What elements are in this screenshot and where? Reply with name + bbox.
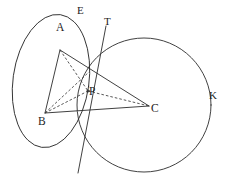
segment-bc (45, 106, 149, 113)
segment-ac (60, 50, 149, 106)
figure-canvas (0, 0, 232, 180)
segment-ab (45, 50, 60, 113)
tangent-line-t (78, 26, 106, 173)
segment-pc (88, 91, 149, 106)
label-vertex-c: C (151, 103, 159, 115)
geometry-figure: A B C P E T K (0, 0, 232, 180)
label-ellipse-e: E (77, 5, 84, 16)
segment-ap (60, 50, 88, 91)
ellipse-e-curve (4, 9, 98, 152)
segment-bq (45, 72, 89, 113)
segment-bp (45, 91, 88, 113)
label-tangent-t: T (104, 16, 111, 27)
label-vertex-b: B (38, 116, 46, 128)
label-vertex-a: A (56, 22, 64, 34)
label-point-p: P (89, 86, 95, 98)
label-circle-k: K (209, 90, 217, 101)
